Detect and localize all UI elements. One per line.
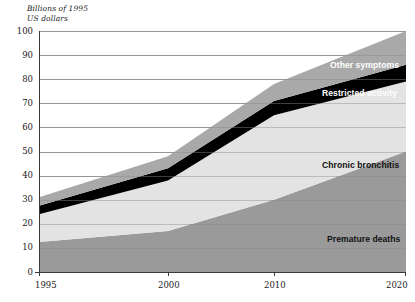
series-label-other-symptoms: Other symptoms bbox=[330, 60, 399, 70]
y-tick-70: 70 bbox=[9, 98, 33, 108]
y-tick-40: 40 bbox=[9, 170, 33, 180]
y-tick-60: 60 bbox=[9, 122, 33, 132]
series-label-restricted-activity: Restricted activity bbox=[322, 88, 397, 98]
series-label-premature-deaths: Premature deaths bbox=[327, 234, 400, 244]
y-tick-90: 90 bbox=[9, 50, 33, 60]
y-tick-10: 10 bbox=[9, 242, 33, 252]
y-tick-50: 50 bbox=[9, 146, 33, 156]
x-tick-2010: 2010 bbox=[264, 280, 286, 290]
y-tick-80: 80 bbox=[9, 74, 33, 84]
y-tick-20: 20 bbox=[9, 218, 33, 228]
chart-plot-area bbox=[0, 0, 415, 302]
y-tick-0: 0 bbox=[9, 267, 33, 277]
x-tick-1995: 1995 bbox=[35, 280, 57, 290]
y-tick-30: 30 bbox=[9, 194, 33, 204]
y-tick-100: 100 bbox=[9, 26, 33, 36]
x-tick-2020: 2020 bbox=[386, 280, 408, 290]
x-tick-2000: 2000 bbox=[158, 280, 180, 290]
chart-container: Billions of 1995 US dollars 100908070605… bbox=[0, 0, 415, 302]
series-label-chronic-bronchitis: Chronic bronchitis bbox=[322, 160, 399, 170]
